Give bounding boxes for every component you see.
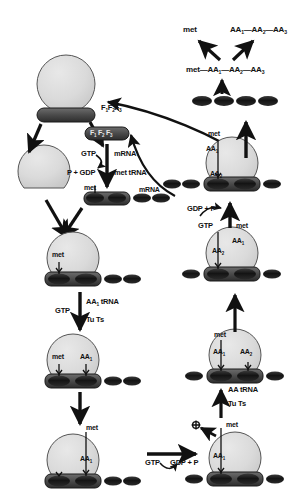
ribosome-upper-right (163, 137, 281, 191)
free-mrna-beads (192, 96, 278, 106)
label-aa1-bottom-right: AA1 (213, 452, 225, 459)
label-mrna-strand: mRNA (139, 186, 160, 193)
label-full-peptide: met—AA1—AA2—AA3 (186, 66, 264, 74)
label-aa2-upper-right: AA2 (210, 170, 222, 177)
label-met-small-subunit: met (84, 184, 96, 191)
label-aa-trna-right: AA tRNA (228, 386, 258, 394)
arrow-large-subunit-joins (46, 200, 68, 238)
translation-cycle-diagram: met AA1—AA2—AA3 met—AA1—AA2—AA3 F1F2F3 F… (0, 0, 291, 499)
ribosome-upper-mid-right (182, 227, 281, 281)
ribosome-met-aa1 (45, 334, 141, 388)
label-gtp-initiation: GTP (81, 150, 96, 158)
label-met-bottom-right: met (226, 421, 238, 428)
label-released-met: met (183, 26, 197, 34)
mrna-strand-beads (133, 193, 170, 202)
label-met-site-left: met (52, 353, 64, 360)
label-met-70s: met (52, 251, 64, 258)
label-gdp-p-translocation: GDP + P (170, 459, 198, 467)
label-met-mid-right: met (214, 331, 226, 338)
label-met-upper-right: met (208, 130, 220, 137)
label-aa1-mid-right: AA1 (213, 348, 225, 355)
label-released-peptide: AA1—AA2—AA3 (230, 26, 287, 34)
ribosome-bottom-right (185, 421, 284, 486)
label-tu-ts-right: Tu Ts (228, 400, 246, 408)
label-initiation-factors-free: F1F2F3 (101, 104, 121, 112)
arrow-release-met (199, 41, 220, 60)
label-tu-ts: Tu Ts (86, 316, 104, 324)
label-aa2-upper-mid-right: AA2 (212, 247, 224, 254)
label-met-trna: met tRNA (114, 169, 147, 177)
arrow-release-peptide (233, 41, 253, 60)
label-aa1-site-left: AA1 (80, 353, 92, 360)
arrow-gtp-hydrolysis-initiation (96, 155, 102, 168)
label-aa1-upper-mid-right: AA1 (232, 237, 244, 244)
label-gtp-elongation: GTP (55, 307, 70, 315)
ribosome-dipeptide (45, 432, 141, 488)
ribosome-top-left (37, 55, 95, 122)
label-aa2-mid-right: AA2 (240, 348, 252, 355)
label-p-gdp-initiation: P + GDP (67, 169, 95, 177)
label-met-bottom-left: met (86, 424, 98, 431)
arrow-trna-release (201, 428, 216, 436)
diagram-graphics (0, 0, 291, 499)
released-trna-icon (192, 421, 201, 430)
label-initiation-factors-bound: F1 F2 F3 (90, 129, 112, 136)
label-aa1-trna: AA1 tRNA (86, 298, 119, 306)
label-aa1-upper-right: AA1 (206, 145, 218, 152)
label-aa1-bottom-left: AA1 (80, 455, 92, 462)
ribosome-70s-initiation (45, 232, 141, 286)
free-large-subunit (18, 145, 70, 188)
label-gtp-right: GTP (198, 222, 213, 230)
label-met-upper-mid-right: met (236, 222, 248, 229)
label-gtp-translocation: GTP (145, 459, 160, 467)
ribosome-mid-right (185, 329, 284, 383)
label-gdp-p-right: GDP + P (187, 205, 215, 213)
label-mrna-in: mRNA (114, 150, 136, 158)
